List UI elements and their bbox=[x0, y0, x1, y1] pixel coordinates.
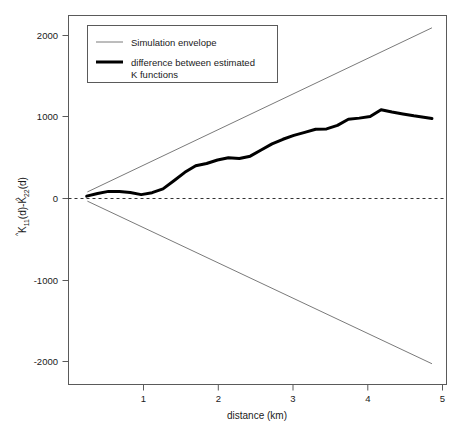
x-axis-ticks bbox=[144, 385, 443, 391]
y-axis-title-arg1: (d)- bbox=[17, 204, 28, 220]
x-tick-label-2: 2 bbox=[216, 393, 221, 404]
x-axis-title: distance (km) bbox=[227, 410, 287, 421]
svg-text:K11(d)-K22(d): K11(d)-K22(d) bbox=[17, 177, 30, 233]
y-tick-label-minus-1000: -1000 bbox=[34, 275, 58, 286]
x-tick-label-4: 4 bbox=[365, 393, 370, 404]
simulation-envelope-lower-line bbox=[87, 201, 432, 364]
y-tick-label-1000: 1000 bbox=[37, 111, 58, 122]
legend-label-difference-k-functions-line1: difference between estimated bbox=[131, 57, 255, 68]
x-tick-label-3: 3 bbox=[290, 393, 295, 404]
y-tick-label-0: 0 bbox=[53, 193, 58, 204]
y-tick-label-minus-2000: -2000 bbox=[34, 356, 58, 367]
legend-box bbox=[88, 26, 278, 83]
x-tick-label-1: 1 bbox=[141, 393, 146, 404]
y-axis-ticks bbox=[63, 36, 69, 362]
y-tick-label-2000: 2000 bbox=[37, 30, 58, 41]
legend-label-difference-k-functions-line2: K functions bbox=[131, 69, 178, 80]
figure-container: 2000 1000 0 -1000 -2000 1 2 3 4 5 distan… bbox=[0, 0, 475, 428]
y-axis-tick-labels: 2000 1000 0 -1000 -2000 bbox=[34, 30, 58, 367]
chart-svg: 2000 1000 0 -1000 -2000 1 2 3 4 5 distan… bbox=[0, 0, 475, 428]
x-axis-tick-labels: 1 2 3 4 5 bbox=[141, 393, 445, 404]
x-tick-label-5: 5 bbox=[440, 393, 445, 404]
legend: Simulation envelope difference between e… bbox=[88, 26, 278, 83]
legend-label-simulation-envelope: Simulation envelope bbox=[131, 37, 217, 48]
y-axis-title: K11(d)-K22(d) ^ ^ bbox=[14, 177, 30, 236]
difference-k-functions-line bbox=[87, 110, 432, 196]
y-axis-title-arg2: (d) bbox=[17, 177, 28, 189]
